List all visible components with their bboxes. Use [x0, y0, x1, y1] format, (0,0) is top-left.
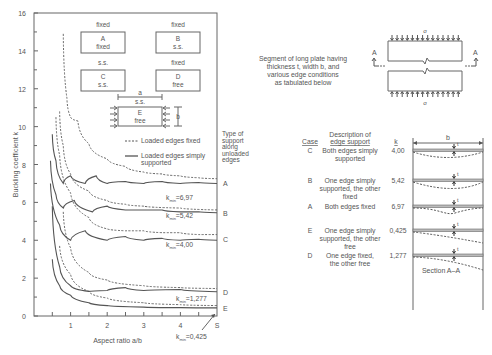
- load-arrow-icon: [110, 106, 117, 110]
- kmin-label-A: kmin=6,97: [166, 194, 193, 203]
- x-tick-label: 2: [105, 322, 109, 329]
- plate-lower-part: [388, 68, 462, 91]
- edge-support-table: CaseDescription ofedge supportkbCBoth ed…: [302, 131, 483, 310]
- row-description: free: [344, 243, 356, 250]
- x-axis-label: Aspect ratio a/b: [93, 337, 142, 345]
- row-description: One edge simply: [324, 227, 376, 235]
- load-arrow-icon: [457, 92, 460, 98]
- row-k-value: 5,42: [391, 177, 404, 184]
- curve-label-E: E: [223, 305, 228, 312]
- row-description: supported, the other: [320, 185, 382, 193]
- segment-caption-line: as tabulated below: [275, 79, 332, 86]
- load-arrow-icon: [406, 35, 409, 41]
- load-arrow-icon: [426, 92, 429, 98]
- row-k-value: 4,00: [391, 147, 404, 154]
- plate-section: [413, 229, 483, 232]
- load-arrow-icon: [436, 35, 439, 41]
- row-case: A: [308, 203, 313, 210]
- row-description: supported, the other: [320, 235, 382, 243]
- icon-side-edge-label: fixed: [96, 43, 110, 50]
- segment-caption-line: thickness t, width b, and: [267, 63, 340, 70]
- load-arrow-icon: [110, 124, 117, 128]
- load-arrow-icon: [431, 92, 434, 98]
- y-tick-label: 14: [18, 48, 26, 55]
- plate-upper-part: [388, 41, 462, 64]
- icon-case-label: A: [101, 35, 106, 42]
- load-arrow-icon: [401, 35, 404, 41]
- legend: Loaded edges fixedLoaded edges simplysup…: [125, 130, 249, 167]
- row-k-value: 6,97: [391, 203, 404, 210]
- table-header-desc-2: edge support: [330, 138, 370, 146]
- load-arrow-icon: [447, 92, 450, 98]
- row-k-value: 0,425: [389, 227, 406, 234]
- load-arrow-icon: [416, 35, 419, 41]
- table-header-case: Case: [302, 138, 318, 145]
- load-arrow-icon: [457, 35, 460, 41]
- buckled-shape: [413, 208, 483, 214]
- y-tick-label: 8: [22, 162, 26, 169]
- load-arrow-icon: [163, 124, 170, 128]
- kmin-label-D: kmin=1,277: [176, 295, 207, 304]
- x-tick-label: 3: [142, 322, 146, 329]
- x-tick-label: 4: [178, 322, 182, 329]
- curve-label-C: C: [223, 236, 228, 243]
- load-arrow-icon: [391, 92, 394, 98]
- load-arrow-icon: [442, 92, 445, 98]
- row-case: C: [308, 147, 313, 154]
- thickness-label: t: [457, 141, 459, 147]
- icon-top-edge-label: fixed: [171, 21, 185, 28]
- row-case: E: [308, 227, 313, 234]
- plate-segment-diagram: Segment of long plate havingthickness t,…: [259, 28, 478, 106]
- load-arrow-icon: [416, 92, 419, 98]
- kmin-label-E: kmin=0,425: [176, 333, 207, 342]
- load-arrow-icon: [110, 118, 117, 122]
- y-tick-label: 6: [22, 199, 26, 206]
- load-arrow-icon: [163, 106, 170, 110]
- table-row-A: ABoth edges fixed6,97t: [308, 197, 483, 214]
- y-tick-label: 16: [18, 10, 26, 17]
- x-tick-label: S: [215, 322, 220, 329]
- load-arrow-icon: [452, 92, 455, 98]
- dim-b-label: b: [176, 113, 180, 120]
- y-axis-label: Buckling coefficient k: [12, 131, 20, 197]
- curve-label-D: D: [223, 289, 228, 296]
- row-description: supported: [335, 155, 365, 163]
- icon-case-label: E: [138, 109, 143, 116]
- row-description: One edge simply: [324, 177, 376, 185]
- plate-section: [413, 254, 483, 257]
- y-tick-label: 10: [18, 124, 26, 131]
- row-description: fixed: [343, 193, 358, 200]
- stress-symbol-top: σ: [423, 28, 427, 34]
- row-description: One edge fixed,: [326, 252, 374, 260]
- load-arrow-icon: [431, 35, 434, 41]
- row-description: Both edges simply: [322, 147, 378, 155]
- legend-label-ss-2: supported: [141, 159, 171, 167]
- section-caption: Section A–A: [422, 267, 460, 274]
- icon-case-label: C: [101, 73, 106, 80]
- icon-top-edge-label: s.s.: [135, 98, 145, 105]
- load-arrow-icon: [436, 92, 439, 98]
- kmin-label-C: kmin=4,00: [166, 241, 193, 250]
- buckled-shape: [413, 232, 483, 243]
- load-arrow-icon: [411, 92, 414, 98]
- y-tick-label: 0: [22, 313, 26, 320]
- icon-side-edge-label: s.s.: [173, 43, 183, 50]
- load-arrow-icon: [426, 35, 429, 41]
- icon-case-label: D: [176, 73, 181, 80]
- plot-curves: [50, 34, 217, 308]
- icon-top-edge-label: fixed: [96, 21, 110, 28]
- plate-section: [413, 205, 483, 208]
- load-arrow-icon: [396, 92, 399, 98]
- table-row-B: BOne edge simplysupported, the otherfixe…: [308, 171, 483, 200]
- load-arrow-icon: [447, 35, 450, 41]
- plot-frame: [34, 13, 217, 316]
- icon-side-edge-label: free: [134, 117, 146, 124]
- icon-side-edge-label: free: [172, 81, 184, 88]
- load-arrow-icon: [163, 112, 170, 116]
- segment-caption-line: Segment of long plate having: [259, 55, 347, 63]
- load-arrow-icon: [110, 112, 117, 116]
- load-arrow-icon: [163, 118, 170, 122]
- load-arrow-icon: [406, 92, 409, 98]
- icon-top-edge-label: s.s.: [98, 59, 108, 66]
- load-arrow-icon: [442, 35, 445, 41]
